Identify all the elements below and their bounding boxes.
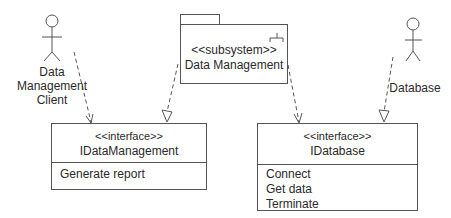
actor-client-label-line-3: Client — [12, 93, 92, 107]
interface-idatabase-stereotype: <<interface>> — [258, 129, 417, 144]
operation-connect: Connect — [266, 167, 417, 182]
actor-client-label: Data Management Client — [12, 65, 92, 107]
interface-idatamanagement-operations: Generate report — [52, 163, 206, 182]
dependency-subsystem-to-idatabase — [288, 65, 302, 123]
subsystem-stereotype: <<subsystem>> — [181, 43, 287, 58]
operation-generate-report: Generate report — [60, 167, 206, 182]
subsystem-name: Data Management — [181, 58, 287, 73]
interface-idatamanagement-stereotype: <<interface>> — [52, 129, 206, 144]
actor-database-figure — [405, 18, 422, 61]
actor-client-label-line-2: Management — [12, 79, 92, 93]
subsystem-label: <<subsystem>> Data Management — [181, 43, 287, 73]
operation-terminate: Terminate — [266, 197, 417, 212]
operation-get-data: Get data — [266, 182, 417, 197]
interface-idatamanagement-name: IDataManagement — [52, 144, 206, 159]
actor-client-figure — [42, 15, 62, 61]
interface-idatamanagement-header: <<interface>> IDataManagement — [52, 124, 206, 163]
interface-idatabase-name: IDatabase — [258, 144, 417, 159]
interface-idatamanagement: <<interface>> IDataManagement Generate r… — [51, 123, 207, 190]
actor-client-label-line-1: Data — [12, 65, 92, 79]
interface-idatabase-header: <<interface>> IDatabase — [258, 124, 417, 165]
dependency-subsystem-to-idatamanagement — [162, 64, 178, 122]
interface-idatabase-operations: Connect Get data Terminate — [258, 165, 417, 212]
actor-database-label: Database — [385, 81, 445, 95]
actor-database-label-line-1: Database — [385, 81, 445, 95]
interface-idatabase: <<interface>> IDatabase Connect Get data… — [257, 123, 418, 211]
